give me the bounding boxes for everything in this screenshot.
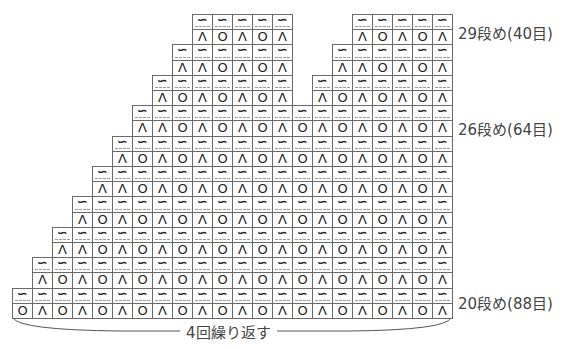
repeat-bracket	[0, 0, 577, 349]
repeat-label: 4回繰り返す	[180, 321, 277, 342]
knitting-chart: ∽Λ∽O∽Λ∽O∽Λ∽Λ∽O∽Λ∽O∽Λ∽Λ∽Λ∽O∽Λ∽O∽Λ∽Λ∽Λ∽O∽Λ…	[0, 0, 577, 349]
